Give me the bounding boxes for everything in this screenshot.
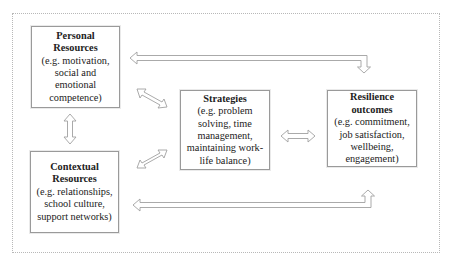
arrow-contextual-outcomes	[133, 190, 375, 211]
node-title: Personal Resources	[53, 30, 97, 55]
node-strategies: Strategies (e.g. problem solving, time m…	[180, 90, 270, 170]
arrow-strategies-outcomes	[281, 130, 315, 142]
node-description: (e.g. commitment, job satisfaction, well…	[334, 116, 410, 166]
node-title: Contextual Resources	[50, 161, 99, 186]
node-description: (e.g. problem solving, time management, …	[187, 105, 263, 167]
arrow-personal-contextual	[64, 114, 76, 144]
node-description: (e.g. relationships, school culture, sup…	[36, 186, 112, 223]
node-personal-resources: Personal Resources (e.g. motivation, soc…	[31, 26, 120, 108]
arrow-personal-strategies	[137, 89, 167, 108]
arrow-personal-outcomes	[130, 52, 371, 73]
node-title: Resilience outcomes	[350, 91, 394, 116]
node-description: (e.g. motivation, social and emotional c…	[41, 55, 109, 105]
node-resilience-outcomes: Resilience outcomes (e.g. commitment, jo…	[327, 90, 417, 167]
arrow-contextual-strategies	[137, 150, 167, 168]
node-title: Strategies	[203, 93, 246, 105]
node-contextual-resources: Contextual Resources (e.g. relationships…	[30, 151, 119, 233]
